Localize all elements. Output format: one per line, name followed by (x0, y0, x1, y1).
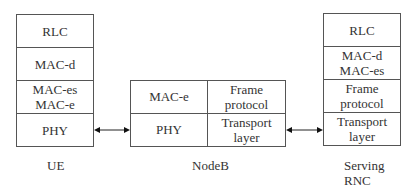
ue-layer-mac-d: MAC-d (17, 48, 93, 81)
nodeb-label: NodeB (192, 158, 229, 173)
ue-layer-mac-es-mac-e: MAC-es MAC-e (17, 81, 93, 114)
rnc-layer-mac-d-mac-es: MAC-d MAC-es (324, 47, 400, 80)
nodeb-protocol-stack: MAC-e Frame protocol PHY Transport layer (130, 80, 286, 147)
nodeb-layer-phy: PHY (131, 114, 208, 147)
nodeb-layer-transport: Transport layer (208, 114, 285, 147)
rnc-layer-frame-protocol: Frame protocol (324, 80, 400, 113)
ue-layer-phy: PHY (17, 114, 93, 146)
nodeb-layer-mac-e: MAC-e (131, 81, 208, 114)
nodeb-layer-frame-protocol: Frame protocol (208, 81, 285, 114)
nodeb-rnc-arrow (286, 125, 323, 135)
ue-label: UE (47, 158, 64, 173)
rnc-layer-transport: Transport layer (324, 113, 400, 145)
rnc-layer-rlc: RLC (324, 14, 400, 47)
ue-nodeb-arrow (94, 125, 130, 135)
rnc-protocol-stack: RLC MAC-d MAC-es Frame protocol Transpor… (323, 13, 401, 146)
ue-protocol-stack: RLC MAC-d MAC-es MAC-e PHY (16, 14, 94, 147)
rnc-label: Serving RNC (344, 158, 384, 188)
ue-layer-rlc: RLC (17, 15, 93, 48)
